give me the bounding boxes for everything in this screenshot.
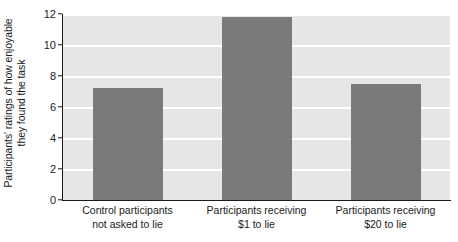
x-axis-line xyxy=(62,200,451,201)
x-axis-category-label-line-2: not asked to lie xyxy=(63,217,192,231)
y-axis-tick-label: 4 xyxy=(50,133,56,144)
bar-chart-figure: Participants' ratings of how enjoyable t… xyxy=(0,0,458,242)
x-axis-category-labels: Control participantsnot asked to liePart… xyxy=(63,203,450,242)
y-axis-title-line-2: they found the task xyxy=(15,18,28,187)
bar xyxy=(93,88,163,200)
x-axis-category-label: Participants receiving$1 to lie xyxy=(192,203,321,231)
y-axis-tick-label: 10 xyxy=(44,40,56,51)
y-axis-tick-labels: 024681012 xyxy=(30,0,60,242)
y-axis-tick-mark xyxy=(58,137,62,138)
x-axis-category-label: Participants receiving$20 to lie xyxy=(321,203,450,231)
y-axis-tick-label: 6 xyxy=(50,102,56,113)
y-axis-tick-mark xyxy=(58,44,62,45)
x-axis-category-label-line-2: $1 to lie xyxy=(192,217,321,231)
x-axis-category-label: Control participantsnot asked to lie xyxy=(63,203,192,231)
plot-area xyxy=(63,14,450,200)
y-axis-title: Participants' ratings of how enjoyable t… xyxy=(0,0,30,205)
y-axis-tick-mark xyxy=(58,168,62,169)
y-axis-tick-label: 2 xyxy=(50,164,56,175)
y-axis-tick-mark xyxy=(58,75,62,76)
bars-group xyxy=(63,14,450,200)
x-axis-category-label-line-2: $20 to lie xyxy=(321,217,450,231)
y-axis-tick-label: 12 xyxy=(44,9,56,20)
y-axis-title-line-1: Participants' ratings of how enjoyable xyxy=(2,18,15,187)
y-axis-line xyxy=(62,14,63,201)
y-axis-tick-mark xyxy=(58,106,62,107)
bar xyxy=(351,84,421,200)
y-axis-tick-mark xyxy=(58,13,62,14)
y-axis-tick-label: 8 xyxy=(50,71,56,82)
x-axis-category-label-line-1: Participants receiving xyxy=(192,203,321,217)
y-axis-tick-label: 0 xyxy=(50,195,56,206)
y-axis-tick-mark xyxy=(58,199,62,200)
x-axis-category-label-line-1: Participants receiving xyxy=(321,203,450,217)
x-axis-category-label-line-1: Control participants xyxy=(63,203,192,217)
bar xyxy=(222,17,292,200)
